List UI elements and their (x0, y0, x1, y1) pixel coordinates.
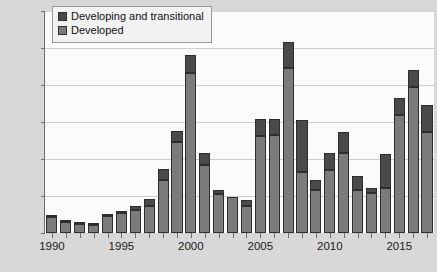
bar-1998 (158, 169, 169, 233)
bar-2000 (185, 55, 196, 233)
bar-segment-developing (241, 200, 252, 206)
x-axis-tick-mark (108, 233, 109, 238)
x-axis-tick-mark (52, 233, 53, 238)
bar-2013 (366, 188, 377, 233)
bar-segment-developed (255, 136, 266, 233)
legend-item-developed: Developed (58, 24, 204, 38)
x-axis-tick-label: 2015 (386, 240, 412, 252)
legend-item-developing-and-transitional: Developing and transitional (58, 10, 204, 24)
bar-segment-developing (310, 180, 321, 189)
bar-segment-developed (199, 165, 210, 233)
bar-segment-developing (380, 154, 391, 187)
bar-1990 (46, 215, 57, 234)
x-axis-tick-mark (163, 233, 164, 238)
bar-2016 (408, 70, 419, 233)
bar-segment-developing (102, 214, 113, 216)
bar-2012 (352, 176, 363, 233)
y-axis-tick-mark (41, 159, 45, 160)
x-axis-tick-mark (274, 233, 275, 238)
y-axis-tick-mark (41, 85, 45, 86)
bar-segment-developing (324, 153, 335, 171)
bar-segment-developing (88, 223, 99, 225)
bar-segment-developed (324, 170, 335, 233)
x-axis-tick-label: 2010 (317, 240, 343, 252)
legend-swatch-developed (58, 26, 67, 35)
bar-segment-developed (366, 193, 377, 233)
bar-segment-developed (185, 73, 196, 233)
bar-segment-developed (352, 190, 363, 233)
x-axis-tick-mark (316, 233, 317, 238)
bar-2006 (269, 119, 280, 233)
bar-segment-developed (338, 153, 349, 233)
x-axis-tick-mark (330, 233, 331, 238)
gridline (45, 233, 434, 234)
x-axis-tick-mark (177, 233, 178, 238)
bar-segment-developed (408, 87, 419, 233)
x-axis-tick-mark (233, 233, 234, 238)
bar-segment-developed (310, 190, 321, 233)
gridline (45, 48, 434, 49)
bar-1991 (60, 222, 71, 233)
bar-segment-developing (213, 190, 224, 195)
x-axis-tick-mark (302, 233, 303, 238)
bar-segment-developed (88, 225, 99, 233)
bar-segment-developing (46, 215, 57, 218)
legend-label-developing: Developing and transitional (71, 10, 204, 24)
plot-area: 0200400600800100012001990199520002005201… (44, 11, 434, 234)
bar-segment-developing (130, 206, 141, 209)
bar-1999 (171, 131, 182, 233)
gridline (45, 122, 434, 123)
bar-segment-developing (199, 153, 210, 165)
x-axis-tick-mark (358, 233, 359, 238)
x-axis-tick-mark (344, 233, 345, 238)
gridline (45, 85, 434, 86)
bar-2009 (310, 180, 321, 233)
bar-2005 (255, 119, 266, 233)
bar-segment-developed (380, 188, 391, 233)
bar-segment-developing (338, 132, 349, 152)
bar-segment-developed (283, 68, 294, 233)
x-axis-tick-mark (121, 233, 122, 238)
bar-2008 (296, 120, 307, 233)
bar-segment-developing (421, 105, 432, 132)
bar-1996 (130, 206, 141, 233)
bar-segment-developing (116, 211, 127, 213)
bar-2011 (338, 132, 349, 233)
legend-swatch-developing (58, 12, 67, 21)
x-axis-tick-mark (205, 233, 206, 238)
bar-1994 (102, 215, 113, 233)
bar-2003 (227, 197, 238, 233)
x-axis-tick-mark (135, 233, 136, 238)
bar-segment-developed (269, 135, 280, 233)
y-axis-tick-mark (41, 122, 45, 123)
x-axis-tick-label: 1990 (39, 240, 65, 252)
bar-segment-developing (269, 119, 280, 135)
x-axis-tick-mark (260, 233, 261, 238)
x-axis-tick-label: 2005 (248, 240, 274, 252)
x-axis-tick-mark (413, 233, 414, 238)
x-axis-tick-label: 2000 (178, 240, 204, 252)
bar-segment-developed (421, 132, 432, 233)
bar-segment-developing (144, 199, 155, 206)
x-axis-tick-mark (385, 233, 386, 238)
bar-1992 (74, 224, 85, 233)
bar-segment-developing (171, 131, 182, 142)
x-axis-tick-mark (246, 233, 247, 238)
x-axis-tick-mark (427, 233, 428, 238)
bar-2004 (241, 200, 252, 233)
gridline (45, 159, 434, 160)
bar-segment-developed (46, 217, 57, 233)
bar-2017 (421, 105, 432, 233)
x-axis-tick-mark (80, 233, 81, 238)
bar-segment-developed (102, 216, 113, 233)
legend-label-developed: Developed (71, 24, 124, 38)
bar-1993 (88, 225, 99, 233)
bar-segment-developing (185, 55, 196, 73)
bar-segment-developing (394, 98, 405, 115)
bar-segment-developing (283, 42, 294, 68)
y-axis-tick-mark (41, 11, 45, 12)
bar-2010 (324, 153, 335, 233)
x-axis-tick-mark (399, 233, 400, 238)
x-axis-tick-mark (191, 233, 192, 238)
bar-segment-developed (116, 213, 127, 233)
